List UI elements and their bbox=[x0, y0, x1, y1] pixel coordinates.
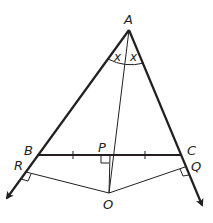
segment-oq bbox=[109, 167, 185, 193]
right-angle-mark-p bbox=[101, 155, 109, 163]
segment-or bbox=[26, 172, 109, 193]
label-q: Q bbox=[191, 159, 201, 174]
label-p: P bbox=[98, 140, 106, 155]
label-b: B bbox=[24, 143, 33, 158]
label-c: C bbox=[187, 143, 197, 158]
label-a: A bbox=[123, 12, 133, 27]
ray-ab bbox=[7, 30, 129, 198]
geometry-diagram: A x x B R P C Q O bbox=[0, 0, 213, 223]
ray-ac bbox=[129, 30, 202, 205]
diagram-canvas: A x x B R P C Q O bbox=[0, 0, 213, 223]
label-o: O bbox=[103, 197, 113, 212]
label-angle-x-right: x bbox=[129, 50, 138, 64]
label-r: R bbox=[14, 158, 23, 173]
label-angle-x-left: x bbox=[113, 50, 122, 64]
